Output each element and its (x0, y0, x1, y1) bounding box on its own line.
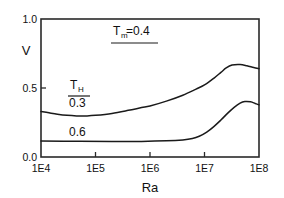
y-axis-title: V (22, 43, 31, 58)
annotation-Tm-base: T (113, 24, 121, 38)
x-axis-title: Ra (142, 180, 159, 195)
annotation-Tm-value: =0.4 (126, 24, 150, 38)
y-tick-label-0.5: 0.5 (22, 82, 37, 94)
x-tick-label-1E7: 1E7 (195, 162, 214, 174)
y-tick-label-1.0: 1.0 (22, 13, 37, 25)
chart-figure: 1.0 0.5 0.0 1E4 1E5 1E6 1E7 1E8 V Ra T m… (0, 0, 284, 198)
x-tick-label-1E6: 1E6 (141, 162, 160, 174)
x-tick-label-1E5: 1E5 (86, 162, 105, 174)
x-tick-label-1E8: 1E8 (250, 162, 269, 174)
series-label-0.6: 0.6 (69, 125, 86, 139)
series-label-0.3: 0.3 (69, 96, 86, 110)
legend-TH-base: T (70, 78, 78, 92)
x-tick-label-1E4: 1E4 (32, 162, 51, 174)
legend-TH-subscript: H (78, 85, 84, 94)
